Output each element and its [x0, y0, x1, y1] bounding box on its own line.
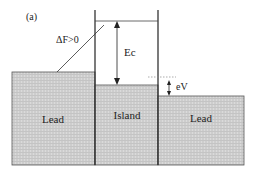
free-energy-slope-line — [57, 25, 104, 72]
ec-arrow-head-up-icon — [114, 21, 120, 28]
island-label: Island — [114, 109, 141, 121]
right-lead-region — [158, 96, 244, 165]
right-lead-label: Lead — [190, 112, 212, 124]
island-region — [95, 85, 158, 165]
left-lead-label: Lead — [42, 113, 64, 125]
ev-arrow-head-down-icon — [167, 91, 171, 96]
delta-f-label: ΔF>0 — [56, 34, 79, 45]
panel-label: (a) — [26, 11, 37, 23]
ec-arrow-head-down-icon — [114, 78, 120, 85]
coulomb-blockade-energy-diagram: (a) Lead Island Lead ΔF>0 Ec eV — [0, 0, 255, 175]
ec-label: Ec — [124, 46, 136, 58]
ev-arrow-head-up-icon — [167, 80, 171, 85]
ev-label: eV — [176, 81, 188, 92]
